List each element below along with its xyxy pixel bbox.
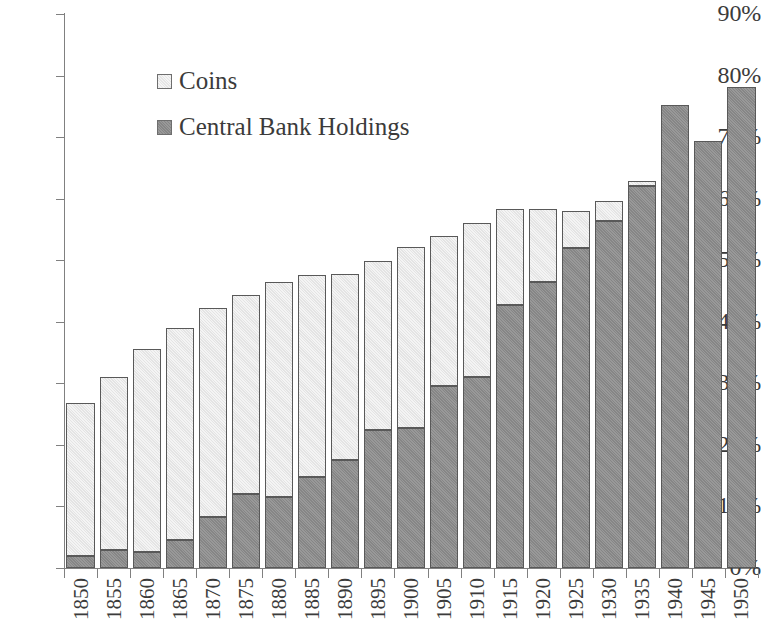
bar-segment-central-bank-holdings (727, 87, 755, 568)
x-axis-tick (461, 569, 462, 578)
bar-1855 (100, 377, 128, 568)
bar-segment-central-bank-holdings (364, 430, 392, 568)
bar-1950 (727, 87, 755, 568)
x-axis-tick-label: 1930 (597, 578, 621, 620)
x-axis-tick-label: 1920 (531, 578, 555, 620)
bar-1905 (430, 236, 458, 568)
x-axis-tick (626, 569, 627, 578)
bar-1865 (166, 328, 194, 568)
x-axis-tick (659, 569, 660, 578)
bar-segment-central-bank-holdings (66, 556, 94, 568)
x-axis-tick-label: 1865 (168, 578, 192, 620)
x-axis-tick (758, 569, 759, 578)
x-axis-tick (295, 569, 296, 578)
x-axis-tick-label: 1940 (663, 578, 687, 620)
y-axis-tick (56, 322, 64, 323)
x-axis-tick-label: 1890 (333, 578, 357, 620)
bar-segment-coins (463, 223, 491, 378)
bar-1895 (364, 261, 392, 568)
x-axis-tick-label: 1935 (630, 578, 654, 620)
legend-label-central-bank-holdings: Central Bank Holdings (179, 114, 410, 140)
x-axis-tick (593, 569, 594, 578)
x-axis-tick (428, 569, 429, 578)
bar-1880 (265, 282, 293, 568)
bar-segment-coins (66, 403, 94, 556)
dark-square-swatch-icon (157, 120, 172, 135)
bar-segment-coins (133, 349, 161, 552)
legend-item-coins: Coins (157, 66, 410, 96)
bar-1915 (496, 209, 524, 568)
bar-segment-central-bank-holdings (562, 248, 590, 568)
bar-1945 (694, 141, 722, 568)
y-axis-tick (56, 260, 64, 261)
bar-segment-coins (232, 295, 260, 494)
x-axis-tick-label: 1895 (366, 578, 390, 620)
bar-segment-coins (562, 211, 590, 248)
bar-segment-central-bank-holdings (595, 221, 623, 568)
y-axis-tick (56, 568, 64, 569)
x-axis-tick (163, 569, 164, 578)
legend-item-central-bank-holdings: Central Bank Holdings (157, 112, 410, 142)
x-axis-tick-label: 1905 (432, 578, 456, 620)
chart-legend: Coins Central Bank Holdings (157, 66, 410, 158)
bar-1910 (463, 223, 491, 568)
bar-segment-coins (430, 236, 458, 387)
y-axis-tick (56, 383, 64, 384)
bar-1930 (595, 201, 623, 568)
bar-segment-central-bank-holdings (430, 386, 458, 568)
x-axis-tick (527, 569, 528, 578)
bar-segment-central-bank-holdings (199, 517, 227, 568)
y-axis-tick (56, 506, 64, 507)
bar-segment-coins (397, 247, 425, 428)
bar-segment-central-bank-holdings (298, 477, 326, 568)
x-axis-tick-label: 1875 (234, 578, 258, 620)
x-axis-tick-label: 1885 (300, 578, 324, 620)
y-axis-tick (56, 445, 64, 446)
legend-label-coins: Coins (179, 68, 237, 94)
bar-segment-coins (595, 201, 623, 221)
x-axis-tick (64, 569, 65, 578)
bar-segment-central-bank-holdings (496, 305, 524, 568)
x-axis-tick (494, 569, 495, 578)
x-axis-tick-label: 1860 (135, 578, 159, 620)
x-axis-tick-label: 1870 (201, 578, 225, 620)
x-axis-tick (196, 569, 197, 578)
bar-segment-coins (331, 274, 359, 460)
stacked-bar-chart: 0%10%20%30%40%50%60%70%80%90% 1850185518… (0, 0, 761, 625)
bar-segment-central-bank-holdings (166, 540, 194, 568)
bar-segment-coins (529, 209, 557, 282)
x-axis-tick (725, 569, 726, 578)
bar-1860 (133, 349, 161, 568)
bar-segment-central-bank-holdings (397, 428, 425, 568)
bar-1875 (232, 295, 260, 568)
bar-segment-central-bank-holdings (463, 377, 491, 568)
x-axis-tick-label: 1880 (267, 578, 291, 620)
y-axis-tick (56, 76, 64, 77)
x-axis-tick-label: 1925 (564, 578, 588, 620)
x-axis-tick-label: 1850 (69, 578, 93, 620)
x-axis-tick (130, 569, 131, 578)
bar-segment-coins (265, 282, 293, 496)
x-axis-tick (262, 569, 263, 578)
y-axis-tick (56, 137, 64, 138)
bar-1885 (298, 275, 326, 568)
bar-segment-coins (100, 377, 128, 549)
x-axis-tick-label: 1915 (498, 578, 522, 620)
bar-1850 (66, 403, 94, 568)
bar-1890 (331, 274, 359, 568)
x-axis-tick-label: 1950 (729, 578, 753, 620)
bar-1870 (199, 308, 227, 568)
bar-segment-central-bank-holdings (232, 494, 260, 568)
bar-segment-central-bank-holdings (529, 282, 557, 568)
bar-segment-central-bank-holdings (265, 497, 293, 568)
x-axis-tick-label: 1900 (399, 578, 423, 620)
x-axis-tick-label: 1945 (696, 578, 720, 620)
bar-segment-central-bank-holdings (331, 460, 359, 568)
bar-segment-coins (364, 261, 392, 430)
bar-segment-coins (496, 209, 524, 304)
bar-segment-central-bank-holdings (694, 141, 722, 568)
x-axis-tick (328, 569, 329, 578)
bar-segment-coins (199, 308, 227, 517)
x-axis-tick-label: 1910 (465, 578, 489, 620)
bar-1935 (628, 181, 656, 568)
